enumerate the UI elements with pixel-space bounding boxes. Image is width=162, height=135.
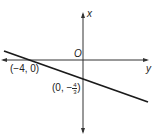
up-arrow-icon (81, 12, 85, 18)
left-arrow-icon (1, 58, 7, 62)
right-arrow-icon (143, 58, 149, 62)
point-label-x-intercept: (−4, 0) (10, 64, 39, 74)
origin-label: O (74, 49, 82, 59)
vertical-axis-label: x (87, 9, 92, 19)
horizontal-axis-label: y (146, 64, 151, 74)
point-label-suffix: ) (77, 82, 80, 93)
fraction-denominator: 3 (73, 89, 76, 95)
point-label-prefix: (0, − (52, 82, 72, 93)
down-arrow-icon (81, 128, 85, 134)
point-label-y-intercept: (0, −43) (52, 82, 81, 95)
